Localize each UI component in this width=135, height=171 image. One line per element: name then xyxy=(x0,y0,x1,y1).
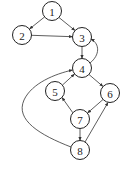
control-flow-graph: 1 2 3 4 5 6 7 8 xyxy=(0,0,135,171)
edge-8-4 xyxy=(22,70,72,147)
edge-4-6 xyxy=(89,75,103,87)
node-6: 6 xyxy=(101,84,120,103)
node-7-label: 7 xyxy=(77,114,83,126)
edge-6-7 xyxy=(88,100,104,114)
node-5-label: 5 xyxy=(52,86,58,98)
node-1: 1 xyxy=(43,2,62,21)
node-3: 3 xyxy=(73,28,92,47)
node-2-label: 2 xyxy=(19,30,25,42)
node-8: 8 xyxy=(71,141,90,160)
node-5: 5 xyxy=(46,82,65,101)
node-6-label: 6 xyxy=(107,88,113,100)
nodes: 1 2 3 4 5 6 7 8 xyxy=(13,2,120,160)
node-7: 7 xyxy=(71,110,90,129)
node-1-label: 1 xyxy=(49,6,55,18)
node-4: 4 xyxy=(73,59,92,78)
node-2: 2 xyxy=(13,26,32,45)
edge-5-4 xyxy=(63,74,75,85)
edge-7-5 xyxy=(62,98,73,114)
edge-4-3 xyxy=(90,39,98,63)
edge-1-3 xyxy=(59,18,75,31)
node-4-label: 4 xyxy=(79,63,85,75)
node-3-label: 3 xyxy=(79,32,85,44)
edge-2-3 xyxy=(32,35,73,36)
edge-1-2 xyxy=(30,17,45,29)
node-8-label: 8 xyxy=(77,145,83,157)
edges xyxy=(22,17,108,147)
